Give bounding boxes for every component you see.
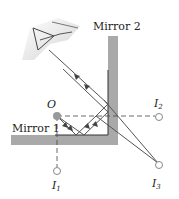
image-1-marker bbox=[54, 168, 61, 175]
image-1-label: I1 bbox=[51, 179, 61, 193]
mirror-1 bbox=[11, 135, 118, 145]
object-label: O bbox=[47, 98, 56, 111]
image-2-marker bbox=[156, 114, 163, 121]
mirror-1-label: Mirror 1 bbox=[12, 122, 60, 135]
object-point bbox=[53, 112, 61, 120]
image-2-label: I2 bbox=[153, 97, 163, 111]
light-rays bbox=[49, 50, 158, 163]
mirror-2-label: Mirror 2 bbox=[93, 20, 141, 33]
two-mirror-diagram: O I1 I2 I3 Mirror 2 Mirror 1 bbox=[0, 0, 179, 199]
image-3-marker bbox=[156, 162, 163, 169]
image-3-label: I3 bbox=[151, 177, 161, 191]
observer-eye-illustration bbox=[22, 18, 80, 60]
arrow-icons bbox=[62, 74, 98, 131]
